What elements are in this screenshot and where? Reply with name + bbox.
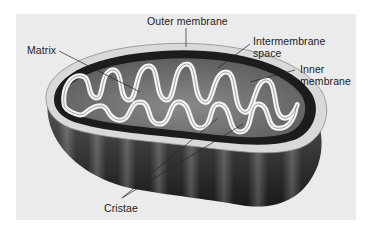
label-cristae: Cristae	[104, 202, 138, 214]
label-inner-membrane-line2: membrane	[300, 75, 351, 87]
label-intermembrane-space-line2: space	[253, 47, 282, 59]
label-inner-membrane-line1: Inner	[300, 63, 324, 75]
label-intermembrane-space-line1: Intermembrane	[253, 35, 326, 47]
label-outer-membrane: Outer membrane	[147, 15, 228, 27]
label-matrix: Matrix	[27, 44, 56, 56]
